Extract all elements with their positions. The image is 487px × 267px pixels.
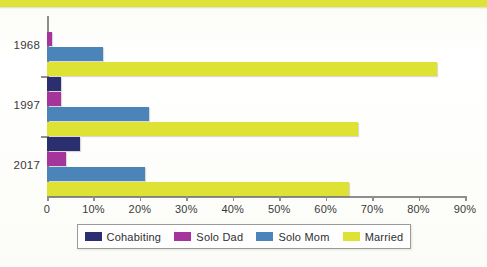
x-tick-0: [47, 196, 49, 201]
y-axis-label-2017: 2017: [0, 159, 40, 171]
x-axis-label-60pct: 60%: [314, 203, 337, 215]
x-tick-10: [93, 196, 95, 201]
chart-legend[interactable]: CohabitingSolo DadSolo MomMarried: [77, 224, 411, 249]
x-tick-20: [140, 196, 142, 201]
bar-married-1997: [47, 122, 358, 136]
legend-item-cohabiting[interactable]: Cohabiting: [85, 231, 162, 243]
x-axis-label-80pct: 80%: [407, 203, 430, 215]
legend-label: Cohabiting: [107, 231, 162, 243]
x-tick-40: [233, 196, 235, 201]
chart-screenshot: 196819972017 010%20%30%40%50%60%70%80%90…: [0, 0, 487, 267]
bar-group: [47, 137, 465, 196]
x-axis-label-90pct: 90%: [454, 203, 477, 215]
legend-label: Solo Dad: [196, 231, 243, 243]
x-axis-label-0: 0: [44, 203, 50, 215]
bar-group: [47, 77, 465, 136]
legend-swatch-icon: [174, 232, 191, 241]
bar-solo-dad-2017: [47, 152, 66, 166]
legend-swatch-icon: [85, 232, 102, 241]
bar-solo-dad-1997: [47, 92, 61, 106]
x-axis-label-30pct: 30%: [175, 203, 198, 215]
x-axis-label-40pct: 40%: [221, 203, 244, 215]
bar-solo-mom-1968: [47, 47, 103, 61]
x-axis-label-50pct: 50%: [268, 203, 291, 215]
x-tick-90: [465, 196, 467, 201]
legend-label: Married: [365, 231, 404, 243]
bar-group: [47, 17, 465, 76]
x-tick-60: [326, 196, 328, 201]
bar-married-1968: [47, 62, 437, 76]
legend-item-solo-dad[interactable]: Solo Dad: [174, 231, 243, 243]
x-axis-line: [47, 196, 466, 198]
x-tick-70: [372, 196, 374, 201]
bar-cohabiting-1997: [47, 77, 61, 91]
x-axis-label-10pct: 10%: [82, 203, 105, 215]
legend-label: Solo Mom: [278, 231, 329, 243]
x-tick-30: [186, 196, 188, 201]
legend-item-married[interactable]: Married: [343, 231, 404, 243]
title-band-shadow: [0, 7, 487, 9]
y-axis-label-1968: 1968: [0, 39, 40, 51]
bar-cohabiting-2017: [47, 137, 80, 151]
x-tick-50: [279, 196, 281, 201]
legend-swatch-icon: [256, 232, 273, 241]
bar-married-2017: [47, 182, 349, 196]
bar-solo-mom-1997: [47, 107, 149, 121]
legend-swatch-icon: [343, 232, 360, 241]
bar-solo-dad-1968: [47, 32, 52, 46]
x-axis-label-70pct: 70%: [361, 203, 384, 215]
y-axis-label-1997: 1997: [0, 99, 40, 111]
bar-solo-mom-2017: [47, 167, 145, 181]
cropped-title-band: [0, 0, 487, 7]
legend-item-solo-mom[interactable]: Solo Mom: [256, 231, 329, 243]
x-axis-label-20pct: 20%: [129, 203, 152, 215]
x-tick-80: [419, 196, 421, 201]
